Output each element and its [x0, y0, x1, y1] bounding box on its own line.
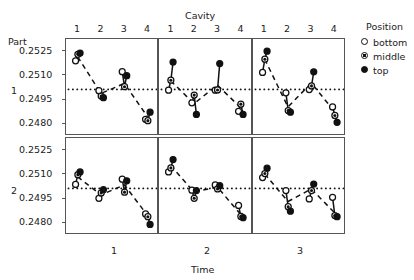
y-tick-label: 0.2525 [19, 46, 52, 56]
legend-title: Position [366, 22, 403, 32]
data-point-middle [308, 188, 314, 194]
data-point-middle [192, 195, 198, 201]
data-point-top [334, 119, 340, 125]
data-point-middle [168, 165, 174, 171]
top-tick-label: 2 [97, 24, 103, 34]
top-tick-label: 4 [237, 24, 243, 34]
data-point-bottom [283, 188, 289, 194]
data-point-middle [215, 87, 221, 93]
top-tick-label: 4 [144, 24, 150, 34]
data-point-middle [145, 118, 151, 124]
data-point-middle [168, 77, 174, 83]
data-point-middle [238, 101, 244, 107]
y-tick-label: 0.2495 [19, 94, 52, 104]
data-point-middle [192, 92, 198, 98]
panel-part1-time2 [158, 38, 251, 135]
data-point-bottom [306, 196, 312, 202]
y-tick-label: 0.2495 [19, 193, 52, 203]
chart-figure: Cavity Part Time 123412341234 0.25250.25… [0, 0, 414, 280]
data-point-middle [262, 56, 268, 62]
data-point-top [194, 188, 200, 194]
data-point-top [124, 178, 130, 184]
cavity-trend-line [78, 57, 148, 117]
data-point-bottom [189, 100, 195, 106]
panel-part1-time1 [65, 38, 158, 135]
top-tick-label: 1 [74, 24, 80, 34]
top-tick-label: 4 [331, 24, 337, 34]
data-point-bottom [166, 87, 172, 93]
top-tick-label: 3 [307, 24, 313, 34]
cavity-trend-line [78, 177, 148, 216]
data-point-top [100, 95, 106, 101]
legend-label-bottom: bottom [373, 38, 407, 48]
data-point-top [310, 69, 316, 75]
data-point-bottom [73, 58, 79, 64]
y-tick-label: 0.2525 [19, 145, 52, 155]
data-point-top [124, 73, 130, 79]
col-strip-label-2: 2 [204, 246, 210, 256]
data-point-middle [122, 84, 128, 90]
row-strip-label-1: 1 [11, 86, 17, 96]
panel-part2-time1 [65, 137, 158, 234]
panel-part2-time2 [158, 137, 251, 234]
panel-part1-time3 [252, 38, 345, 135]
data-point-middle [308, 83, 314, 89]
panel-part2-time3 [252, 137, 345, 234]
cavity-trend-line [171, 165, 241, 214]
data-point-bottom [259, 69, 265, 75]
top-tick-label: 3 [214, 24, 220, 34]
x-axis-title: Time [191, 265, 214, 275]
data-point-top [240, 111, 246, 117]
data-point-top [310, 181, 316, 187]
y-tick-label: 0.2510 [19, 169, 52, 179]
data-point-top [170, 59, 176, 65]
data-point-top [240, 215, 246, 221]
top-tick-label: 1 [261, 24, 267, 34]
data-point-top [217, 61, 223, 67]
data-point-middle [145, 214, 151, 220]
data-point-middle [332, 112, 338, 118]
top-tick-label: 3 [121, 24, 127, 34]
col-strip-label-1: 1 [111, 246, 117, 256]
data-point-bottom [73, 181, 79, 187]
data-point-top [194, 111, 200, 117]
data-point-bottom [329, 194, 335, 200]
data-point-top [77, 50, 83, 56]
top-axis-title: Cavity [185, 11, 215, 21]
data-point-top [147, 109, 153, 115]
col-strip-label-3: 3 [297, 246, 303, 256]
data-point-top [147, 221, 153, 227]
cavity-trend-line [264, 174, 334, 213]
data-point-bottom [283, 90, 289, 96]
data-point-top [287, 109, 293, 115]
data-point-top [217, 183, 223, 189]
panel-grid [65, 38, 345, 234]
data-point-top [264, 48, 270, 54]
top-tick-label: 1 [167, 24, 173, 34]
legend-label-middle: middle [373, 52, 405, 62]
top-tick-label: 2 [191, 24, 197, 34]
legend-label-top: top [373, 66, 389, 76]
cavity-trend-line [264, 59, 334, 112]
data-point-top [170, 157, 176, 163]
data-point-top [77, 169, 83, 175]
y-tick-label: 0.2510 [19, 70, 52, 80]
data-point-top [334, 214, 340, 220]
legend-marker-bottom-icon [361, 38, 368, 45]
data-point-bottom [329, 104, 335, 110]
data-point-bottom [236, 202, 242, 208]
row-strip-label-2: 2 [11, 186, 17, 196]
data-point-top [264, 165, 270, 171]
legend-marker-top-icon [361, 66, 368, 73]
cavity-trend-line [171, 81, 241, 108]
y-tick-label: 0.2480 [19, 118, 52, 128]
data-point-top [287, 208, 293, 214]
y-tick-label: 0.2480 [19, 217, 52, 227]
data-point-top [100, 187, 106, 193]
cluster-tie-line [169, 62, 174, 90]
legend-marker-middle-icon [361, 52, 368, 59]
top-tick-label: 2 [284, 24, 290, 34]
data-point-middle [122, 189, 128, 195]
